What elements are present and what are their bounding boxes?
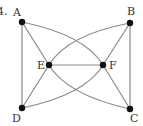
label-c: C <box>130 112 138 125</box>
node-a <box>19 19 25 25</box>
label-b: B <box>127 5 135 18</box>
edge-f-d <box>22 65 103 108</box>
problem-number: 4. <box>0 5 8 18</box>
edge-b-e <box>49 23 130 65</box>
edge-e-c <box>49 65 130 109</box>
node-b <box>127 20 133 26</box>
graph-diagram: 4. A B E F D C <box>0 0 143 126</box>
node-e <box>46 62 52 68</box>
edge-a-f <box>22 22 103 65</box>
label-a: A <box>12 6 22 19</box>
label-d: D <box>12 112 21 125</box>
label-e: E <box>37 59 45 72</box>
node-f <box>100 62 106 68</box>
label-f: F <box>109 59 117 72</box>
node-d <box>19 105 25 111</box>
